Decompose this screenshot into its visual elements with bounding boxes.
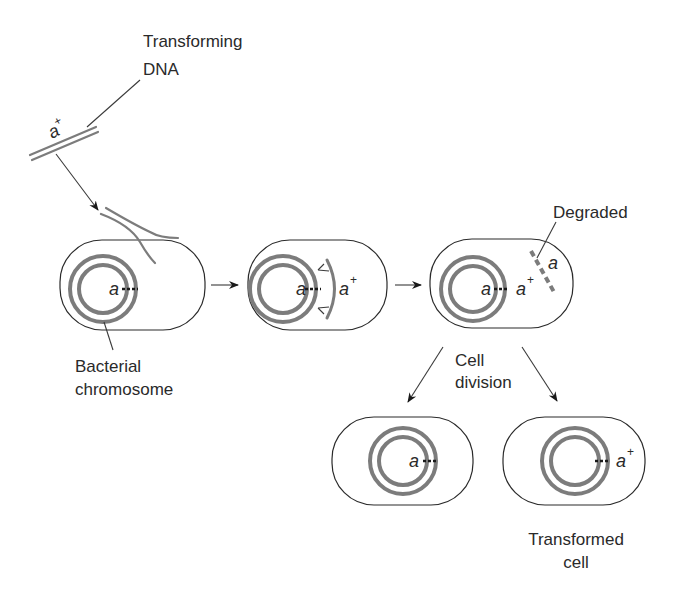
cell-2-pairing-tick-top xyxy=(318,264,329,271)
cell-3-donor-allele-sup: + xyxy=(527,273,534,287)
bacterial-chromosome-line2: chromosome xyxy=(75,380,173,399)
transformed-cell-line2: cell xyxy=(563,553,589,572)
transformed-cell-line1: Transformed xyxy=(528,530,624,549)
cell-division-line2: division xyxy=(455,373,512,392)
degraded-allele-label: a xyxy=(548,253,558,273)
degraded-text: Degraded xyxy=(553,203,628,222)
bacterial-chromosome-label: Bacterial chromosome xyxy=(75,322,173,399)
transforming-dna-leader-line xyxy=(87,80,140,127)
cell-2-allele-label: a xyxy=(296,279,306,299)
cell-division-label: Cell division xyxy=(455,351,512,392)
cell-1-chromosome-inner xyxy=(79,265,127,313)
cell-4-membrane xyxy=(332,417,473,505)
cell-2-pairing: a a + xyxy=(248,240,387,330)
cell-2-pairing-tick-bottom xyxy=(318,307,329,314)
cell-3-allele-label: a xyxy=(481,279,491,299)
bacterial-chromosome-line1: Bacterial xyxy=(75,357,141,376)
transforming-dna-line2: DNA xyxy=(143,60,180,79)
cell-2-paired-donor-strand xyxy=(327,260,335,318)
cell-3-recombined: a a + a xyxy=(430,239,573,328)
transforming-dna-line1: Transforming xyxy=(143,32,243,51)
cell-3-donor-allele-label: a xyxy=(516,279,526,299)
free-dna-fragment: a + xyxy=(30,113,98,160)
cell-1-allele-label: a xyxy=(109,279,119,299)
cell-5-allele-label: a xyxy=(616,451,626,471)
entering-dna-strand-1 xyxy=(106,208,178,238)
uptake-arrow xyxy=(56,154,98,210)
cell-division-line1: Cell xyxy=(455,351,484,370)
division-arrow-left xyxy=(408,347,443,402)
degraded-label: Degraded xyxy=(537,203,628,258)
transformation-diagram: Transforming DNA a + a Bacterial chromos… xyxy=(0,0,674,596)
transformed-cell-label: Transformed cell xyxy=(528,530,624,572)
transforming-dna-label: Transforming DNA xyxy=(87,32,243,127)
division-arrow-right xyxy=(522,347,557,401)
cell-2-donor-allele-label: a xyxy=(339,279,349,299)
cell-1-uptake: a xyxy=(60,208,205,330)
cell-5-transformed: a + xyxy=(503,417,645,505)
cell-4-chromosome-inner xyxy=(379,437,427,485)
cell-4-daughter: a xyxy=(332,417,473,505)
cell-5-allele-sup: + xyxy=(627,445,634,459)
cell-4-allele-label: a xyxy=(409,451,419,471)
cell-2-donor-allele-sup: + xyxy=(350,273,357,287)
bacterial-chromosome-leader-line xyxy=(104,322,113,350)
cell-5-chromosome-inner xyxy=(551,437,599,485)
